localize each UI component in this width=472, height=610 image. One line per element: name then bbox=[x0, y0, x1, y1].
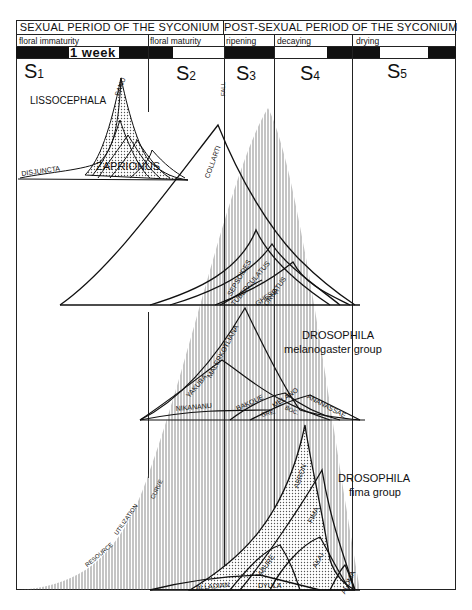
melanogaster-title: DROSOPHILA bbox=[302, 329, 374, 341]
lissocephala-title: LISSOCEPHALA bbox=[30, 95, 106, 106]
melanogaster-subtitle: melanogaster group bbox=[284, 343, 382, 355]
zaprionus-title: ZAPRIONUS bbox=[96, 160, 160, 172]
species-dyula: DYULA bbox=[258, 582, 281, 589]
fima-subtitle: fima group bbox=[349, 486, 401, 498]
fima-title: DROSOPHILA bbox=[338, 472, 410, 484]
fall-annotation: FALL bbox=[220, 82, 226, 96]
